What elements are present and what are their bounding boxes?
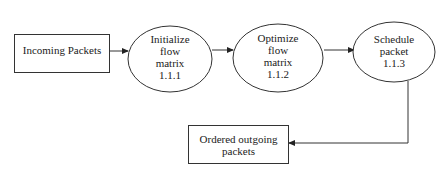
incoming-packets-label: Incoming Packets [23,44,102,56]
process-label-line: Initialize [130,33,210,45]
process-label-line: flow [238,44,318,56]
process-number: 1.1.3 [354,57,434,69]
outgoing-label-line: Ordered outgoing [200,133,278,145]
process-label-line: flow [130,45,210,57]
process-label-line: packet [354,45,434,57]
process-label-line: matrix [238,56,318,68]
outgoing-label-line: packets [222,145,255,157]
process-initialize-flow-matrix: Initialize flow matrix 1.1.1 [130,33,210,81]
process-number: 1.1.1 [130,69,210,81]
process-label-line: matrix [130,57,210,69]
process-label-line: Optimize [238,32,318,44]
edge-schedule-to-outgoing [289,81,408,143]
incoming-packets-box: Incoming Packets [14,34,110,73]
process-schedule-packet: Schedule packet 1.1.3 [354,33,434,69]
process-number: 1.1.2 [238,68,318,80]
process-optimize-flow-matrix: Optimize flow matrix 1.1.2 [238,32,318,80]
process-label-line: Schedule [354,33,434,45]
ordered-outgoing-packets-box: Ordered outgoing packets [188,125,289,164]
